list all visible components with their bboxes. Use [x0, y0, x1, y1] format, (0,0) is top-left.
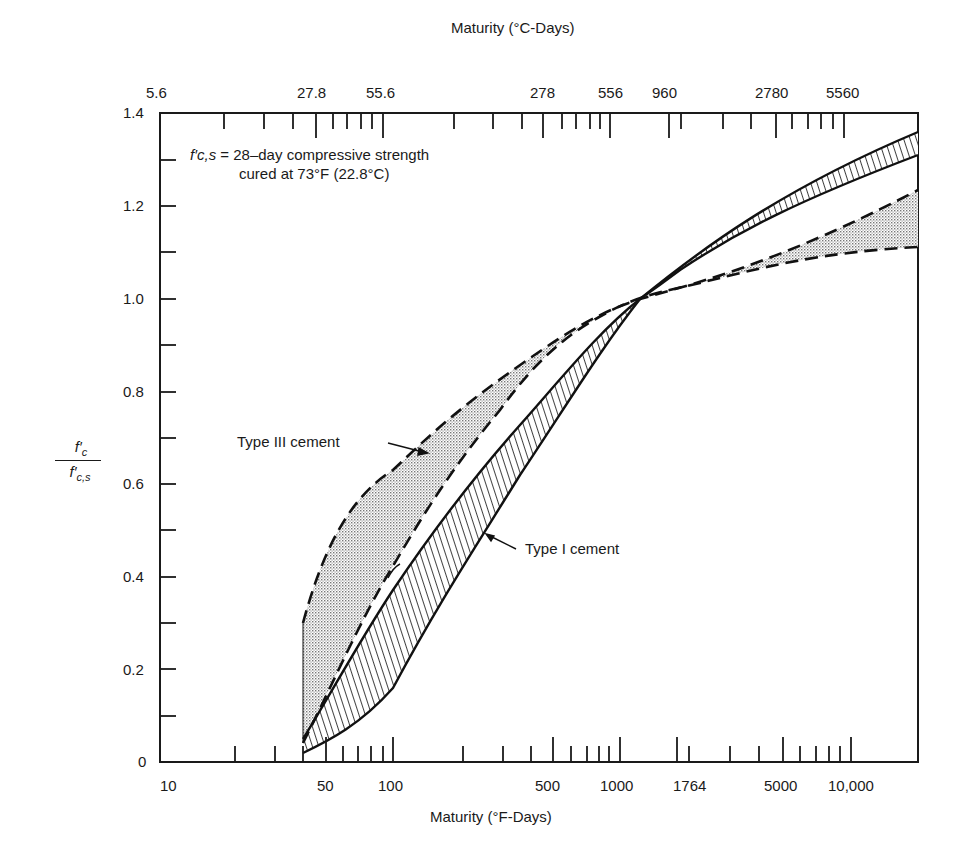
fraction-bar [55, 460, 101, 461]
maturity-strength-chart [0, 0, 961, 860]
top-axis-title: Maturity (°C-Days) [451, 19, 575, 36]
y-tick-label: 0.6 [123, 475, 144, 492]
annotation-equation: = 28–day compressive strength [220, 146, 429, 163]
type-i-band [303, 132, 918, 753]
top-tick-label: 960 [652, 84, 677, 101]
x-tick-label: 50 [317, 777, 334, 794]
y-tick-label: 0.4 [123, 568, 144, 585]
x-tick-label: 5000 [764, 777, 797, 794]
type-iii-label: Type III cement [237, 433, 340, 450]
definition-annotation: f′c,s = 28–day compressive strength cure… [190, 145, 429, 183]
x-tick-label: 1764 [673, 777, 706, 794]
y-axis-label-denominator: f′c,s [55, 463, 101, 483]
y-axis-label-numerator: f′c [55, 438, 101, 458]
y-axis [160, 160, 176, 762]
y-tick-label: 1.4 [123, 104, 144, 121]
top-tick-label: 5.6 [146, 84, 167, 101]
x-axis-title: Maturity (°F-Days) [430, 808, 552, 825]
type-i-label: Type I cement [525, 540, 619, 557]
top-tick-label: 55.6 [366, 84, 395, 101]
top-tick-label: 2780 [755, 84, 788, 101]
x-tick-label: 100 [378, 777, 403, 794]
y-axis-label: f′c f′c,s [55, 438, 101, 483]
x-axis-top-ticks [224, 113, 844, 138]
y-tick-label: 1.2 [123, 197, 144, 214]
y-tick-label: 1.0 [123, 290, 144, 307]
x-tick-label: 10,000 [828, 777, 874, 794]
top-tick-label: 27.8 [297, 84, 326, 101]
y-tick-label: 0.8 [123, 383, 144, 400]
top-tick-label: 556 [598, 84, 623, 101]
x-tick-label: 1000 [600, 777, 633, 794]
x-tick-label: 10 [160, 777, 177, 794]
top-tick-label: 278 [530, 84, 555, 101]
x-tick-label: 500 [535, 777, 560, 794]
annotation-line2: cured at 73°F (22.8°C) [190, 164, 429, 183]
top-tick-label: 5560 [826, 84, 859, 101]
annotation-symbol: f′c,s [190, 146, 216, 163]
y-tick-label: 0 [138, 753, 146, 770]
y-tick-label: 0.2 [123, 661, 144, 678]
